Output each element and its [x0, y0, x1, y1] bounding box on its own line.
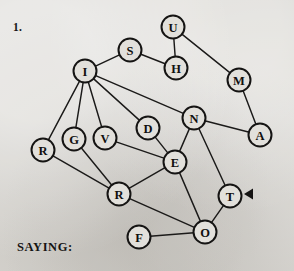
graph-node-e[interactable]: E	[164, 151, 187, 174]
graph-node-d[interactable]: D	[137, 117, 160, 140]
node-label-f: F	[135, 231, 143, 245]
graph-edge-i-s	[95, 55, 120, 67]
graph-node-i[interactable]: I	[74, 60, 97, 83]
graph-edge-r-o	[129, 198, 195, 227]
graph-node-o[interactable]: O	[194, 221, 217, 244]
graph-edge-d-e	[155, 137, 168, 154]
graph-node-s[interactable]: S	[119, 39, 142, 62]
marker-layer	[244, 189, 253, 200]
graph-node-m[interactable]: M	[228, 69, 251, 92]
graph-diagram: USHIMNDAVGRERTOF	[0, 0, 294, 271]
graph-node-a[interactable]: A	[249, 124, 272, 147]
graph-node-h[interactable]: H	[165, 57, 188, 80]
graph-node-t[interactable]: T	[219, 185, 242, 208]
graph-edge-u-h	[174, 38, 175, 57]
graph-edge-v-e	[115, 142, 164, 159]
graph-edge-i-n	[95, 75, 184, 113]
node-label-r2: R	[114, 188, 124, 202]
graph-edge-t-o	[211, 205, 223, 223]
node-label-a: A	[255, 129, 264, 143]
node-label-i: I	[83, 65, 88, 79]
node-label-u: U	[168, 21, 177, 35]
graph-edge-r-e	[129, 167, 166, 188]
node-label-m: M	[233, 74, 245, 88]
node-label-e: E	[171, 156, 179, 170]
graph-node-v[interactable]: V	[94, 127, 117, 150]
graph-node-f[interactable]: F	[128, 226, 151, 249]
graph-edge-n-a	[205, 121, 250, 133]
graph-edge-i-g	[76, 82, 83, 128]
graph-node-r1[interactable]: R	[32, 139, 55, 162]
graph-node-n[interactable]: N	[183, 107, 206, 130]
graph-node-g[interactable]: G	[63, 128, 86, 151]
graph-edge-m-a	[243, 90, 256, 124]
graph-edge-s-h	[140, 54, 166, 64]
graph-edge-n-e	[179, 128, 189, 152]
node-label-g: G	[69, 133, 79, 147]
graph-edge-n-t	[199, 128, 226, 186]
node-layer: USHIMNDAVGRERTOF	[32, 16, 272, 249]
graph-edge-e-o	[179, 172, 200, 222]
graph-edge-f-o	[150, 233, 194, 236]
graph-edge-u-m	[182, 34, 231, 73]
node-label-o: O	[200, 226, 210, 240]
node-label-r1: R	[38, 144, 48, 158]
node-label-n: N	[189, 112, 198, 126]
graph-node-r2[interactable]: R	[108, 183, 131, 206]
left-arrow-icon	[244, 189, 253, 200]
graph-edge-i-v	[88, 82, 102, 128]
node-label-v: V	[100, 132, 109, 146]
node-label-d: D	[143, 122, 152, 136]
node-label-s: S	[127, 44, 134, 58]
puzzle-figure: 1. USHIMNDAVGRERTOF SAYING:	[0, 0, 294, 271]
graph-node-u[interactable]: U	[162, 16, 185, 39]
caption-saying: SAYING:	[17, 240, 73, 255]
node-label-h: H	[171, 62, 181, 76]
node-label-t: T	[226, 190, 235, 204]
graph-edge-g-r	[81, 148, 112, 186]
